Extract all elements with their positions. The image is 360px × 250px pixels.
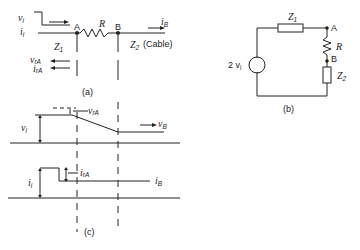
label-z2: Z2	[337, 70, 347, 82]
label-resistor-r: R	[98, 18, 105, 29]
label-resistor-r: R	[335, 41, 342, 52]
label-vi: vi	[18, 12, 24, 24]
label-ib: iB	[155, 175, 163, 187]
caption-a: (a)	[82, 87, 93, 97]
label-node-a: A	[74, 22, 80, 32]
caption-c: (c)	[84, 227, 95, 237]
panel-b-equivalent-circuit: Z1 A R B Z2 2 vi (b)	[228, 11, 347, 114]
figure-canvas: vi ii A R B Z1 Z2 (Cable) iB vrA irA (a)…	[0, 0, 360, 250]
label-vi: vi	[21, 122, 27, 134]
voltage-waveform	[35, 115, 164, 132]
impedance-z2-icon	[323, 67, 331, 83]
label-ii: ii	[20, 26, 25, 38]
label-z1: Z1	[288, 11, 298, 23]
label-ii: ii	[28, 177, 33, 189]
panel-c-waveforms: vi vrA vB ii irA iB (c)	[8, 102, 180, 237]
current-waveform	[40, 168, 150, 181]
impedance-z1-icon	[278, 24, 303, 32]
voltage-source-icon	[249, 57, 265, 73]
label-vra: vrA	[88, 105, 99, 116]
label-source: 2 vi	[228, 60, 241, 71]
label-vb: vB	[158, 118, 167, 130]
label-z1: Z1	[54, 41, 64, 53]
label-ib: iB	[161, 16, 169, 28]
label-cable: (Cable)	[143, 39, 173, 49]
resistor-r-icon	[80, 29, 118, 37]
node-a-dot	[325, 26, 329, 30]
label-ira: irA	[80, 167, 89, 178]
label-node-a: A	[331, 23, 337, 33]
caption-b: (b)	[283, 104, 294, 114]
label-z2: Z2	[130, 39, 140, 51]
panel-a-circuit: vi ii A R B Z1 Z2 (Cable) iB vrA irA (a)	[18, 12, 173, 97]
label-node-b: B	[331, 54, 337, 64]
label-node-b: B	[115, 22, 121, 32]
resistor-r-icon	[323, 37, 331, 60]
